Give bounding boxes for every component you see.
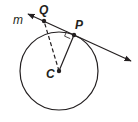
label-c: C: [46, 67, 55, 81]
label-q: Q: [39, 3, 49, 17]
label-m: m: [13, 13, 23, 27]
point-c: [57, 69, 61, 73]
segment-cq: [44, 21, 59, 71]
point-p: [72, 33, 76, 37]
point-q: [42, 19, 46, 23]
label-p: P: [75, 18, 84, 32]
geometry-diagram: m Q P C: [0, 0, 138, 122]
radius-cp: [59, 35, 74, 71]
